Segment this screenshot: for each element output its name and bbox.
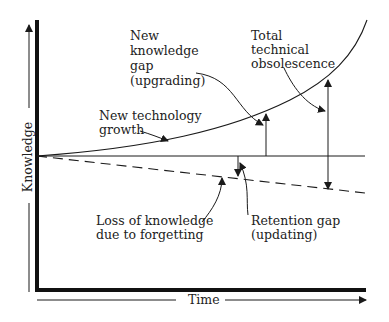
svg-text:knowledge: knowledge — [130, 43, 199, 58]
svg-text:due to forgetting: due to forgetting — [96, 227, 204, 242]
svg-text:(updating): (updating) — [251, 227, 317, 242]
y-axis-label: Knowledge — [20, 122, 35, 192]
total-obs-pointer — [284, 68, 325, 111]
new-gap-pointer — [196, 73, 263, 125]
x-axis-label: Time — [188, 292, 220, 307]
svg-text:Loss of knowledge: Loss of knowledge — [96, 213, 213, 228]
svg-text:Total: Total — [251, 28, 282, 43]
svg-text:obsolescence: obsolescence — [251, 56, 335, 71]
tech-growth-label: New technology growth — [99, 108, 203, 137]
svg-text:New technology: New technology — [99, 108, 203, 123]
svg-text:New: New — [130, 28, 159, 43]
svg-text:gap: gap — [130, 58, 153, 73]
new-gap-label: New knowledge gap (upgrading) — [130, 28, 205, 88]
technology-growth-curve — [37, 20, 367, 156]
svg-text:(upgrading): (upgrading) — [130, 73, 205, 88]
loss-label: Loss of knowledge due to forgetting — [96, 213, 213, 242]
svg-text:technical: technical — [251, 42, 309, 57]
knowledge-obsolescence-diagram: Knowledge Time New knowledge gap (upgrad… — [0, 0, 389, 322]
svg-text:Retention gap: Retention gap — [251, 213, 340, 228]
forgetting-line — [37, 156, 365, 193]
retention-label: Retention gap (updating) — [251, 213, 340, 242]
total-obsolescence-label: Total technical obsolescence — [251, 28, 335, 71]
svg-text:growth: growth — [99, 122, 144, 137]
retention-pointer — [240, 163, 248, 215]
